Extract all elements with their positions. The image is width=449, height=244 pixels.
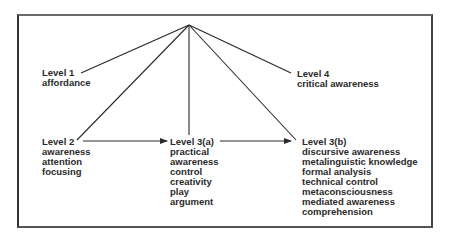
- node-item: focusing: [42, 167, 91, 177]
- node-level4: Level 4 critical awareness: [297, 69, 379, 89]
- node-level3a: Level 3(a) practical awareness control c…: [170, 137, 219, 207]
- edge-apex-level2: [77, 25, 189, 140]
- edge-apex-level3b: [189, 25, 296, 140]
- node-item: affordance: [42, 78, 91, 88]
- node-item: comprehension: [302, 207, 418, 217]
- edge-apex-level4: [189, 25, 291, 73]
- node-level1: Level 1 affordance: [42, 68, 91, 88]
- node-item: critical awareness: [297, 79, 379, 89]
- node-level2: Level 2 awareness attention focusing: [42, 137, 91, 177]
- node-level3b: Level 3(b) discursive awareness metaling…: [302, 137, 418, 217]
- edge-apex-level1: [81, 25, 189, 73]
- node-item: argument: [170, 197, 219, 207]
